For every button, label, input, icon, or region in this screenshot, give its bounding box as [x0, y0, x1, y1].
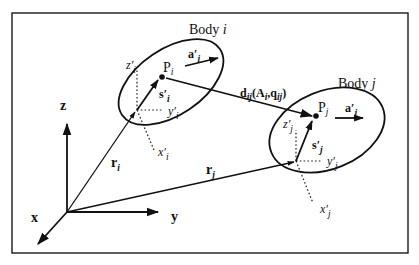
s-prime-j-vector: [296, 121, 312, 161]
figure-frame: [12, 13, 408, 253]
s-prime-i-vector: [137, 80, 158, 110]
a-prime-i-label: a′i: [188, 47, 200, 64]
body-i-outline: [104, 22, 239, 143]
z-prime-j-label: z′j: [282, 117, 293, 134]
y-prime-j-label: y′j: [326, 154, 338, 171]
r-j-vector: [67, 162, 294, 212]
body-i-title: Body i: [189, 22, 227, 37]
x-prime-i-label: x′i: [157, 145, 169, 162]
y-axis-label: y: [171, 209, 178, 224]
z-axis-label: z: [60, 98, 66, 113]
a-prime-j-label: a′j: [345, 101, 357, 118]
point-p-j-label: Pj: [318, 100, 329, 117]
s-prime-i-label: s′i: [159, 87, 170, 104]
point-p-i: [159, 74, 165, 80]
r-i-label: ri: [111, 155, 120, 173]
z-prime-i-label: z′i: [125, 58, 136, 75]
d-ij-label: dij(Ai,qij): [240, 86, 286, 102]
x-axis-label: x: [31, 210, 38, 225]
body-j-outline: [257, 71, 397, 188]
x-prime-i-axis: [137, 110, 154, 150]
global-frame: z y x: [31, 98, 178, 244]
x-prime-j-axis: [296, 161, 313, 203]
r-i-vector: [67, 112, 135, 212]
r-j-label: rj: [206, 162, 215, 180]
body-j-title: Body j: [338, 76, 376, 91]
multibody-diagram: z y x ri rj Body i z′i y′i x′i s′i Pi a′…: [0, 0, 419, 265]
x-axis-arrow: [38, 212, 67, 244]
s-prime-j-label: s′j: [312, 138, 323, 155]
x-prime-j-label: x′j: [319, 202, 331, 219]
point-p-i-label: Pi: [163, 60, 174, 77]
